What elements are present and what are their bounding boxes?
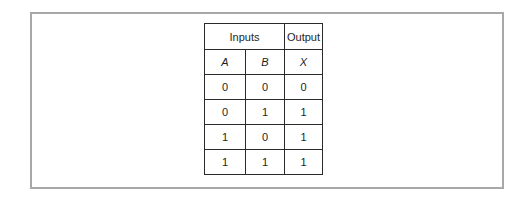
cell-b: 0 — [246, 75, 285, 100]
output-header: Output — [285, 24, 323, 50]
column-header-b: B — [246, 50, 285, 75]
cell-a: 0 — [205, 75, 246, 100]
cell-a: 1 — [205, 150, 246, 175]
truth-table: Inputs Output A B X 0 0 0 0 1 1 1 0 1 1 … — [204, 23, 323, 175]
cell-b: 1 — [246, 100, 285, 125]
cell-x: 0 — [285, 75, 323, 100]
cell-a: 1 — [205, 125, 246, 150]
column-header-row: A B X — [205, 50, 323, 75]
cell-b: 0 — [246, 125, 285, 150]
inputs-header: Inputs — [205, 24, 285, 50]
table-row: 1 1 1 — [205, 150, 323, 175]
group-header-row: Inputs Output — [205, 24, 323, 50]
column-header-x: X — [285, 50, 323, 75]
column-header-a: A — [205, 50, 246, 75]
cell-a: 0 — [205, 100, 246, 125]
table-row: 1 0 1 — [205, 125, 323, 150]
table-row: 0 1 1 — [205, 100, 323, 125]
cell-b: 1 — [246, 150, 285, 175]
cell-x: 1 — [285, 125, 323, 150]
table-row: 0 0 0 — [205, 75, 323, 100]
cell-x: 1 — [285, 150, 323, 175]
cell-x: 1 — [285, 100, 323, 125]
